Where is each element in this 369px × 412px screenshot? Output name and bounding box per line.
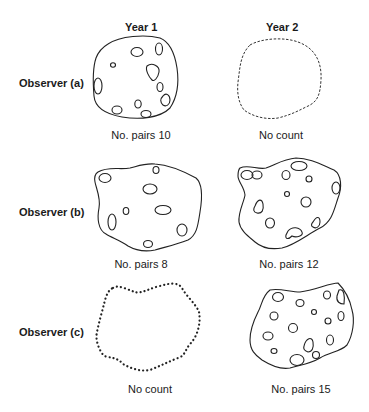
territory-map-c-year1: [96, 284, 199, 371]
territory-diagram: [0, 0, 369, 412]
caption-b-year2: No. pairs 12: [229, 258, 349, 270]
territory-map-b-year2: [238, 158, 341, 249]
caption-b-year1: No. pairs 8: [81, 258, 201, 270]
territory-map-b-year1: [95, 164, 202, 251]
caption-c-year2: No. pairs 15: [241, 383, 361, 395]
caption-c-year1: No count: [90, 383, 210, 395]
caption-a-year1: No. pairs 10: [81, 129, 201, 141]
territory-map-a-year2: [238, 39, 321, 119]
caption-a-year2: No count: [221, 129, 341, 141]
territory-map-c-year2: [250, 283, 353, 368]
territory-map-a-year1: [93, 36, 178, 118]
